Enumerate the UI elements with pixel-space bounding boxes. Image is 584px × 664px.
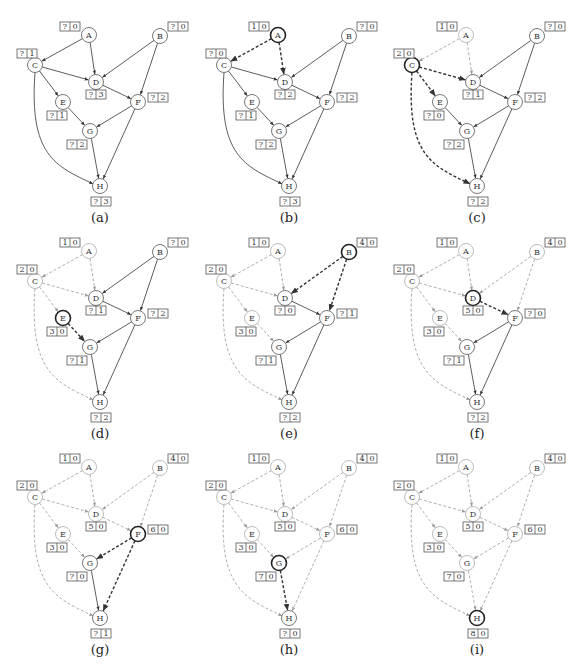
label-box-h: ?2: [91, 413, 111, 422]
in-degree: 2: [79, 140, 84, 149]
node-label: C: [409, 277, 415, 286]
in-degree: 0: [287, 306, 292, 315]
edge-e-g: [445, 539, 461, 557]
label-box-a: 10: [60, 238, 80, 247]
in-degree: 2: [349, 93, 354, 102]
order-number: ?: [89, 306, 93, 315]
node-f: F: [508, 527, 523, 542]
order-number: 2: [208, 265, 213, 274]
in-degree: 0: [268, 572, 273, 581]
panel-c: A10B?0C20D?1E?0F?2G?2H?2(c): [394, 22, 565, 225]
node-g: G: [460, 556, 475, 571]
order-number: 2: [19, 481, 24, 490]
label-box-a: 10: [249, 22, 269, 31]
order-number: ?: [70, 140, 74, 149]
label-box-g: ?0: [67, 572, 87, 581]
edge-d-f: [292, 85, 320, 98]
node-label: D: [282, 78, 288, 87]
edge-b-f: [518, 475, 535, 526]
order-number: ?: [171, 238, 175, 247]
node-d: D: [278, 507, 293, 522]
in-degree: 1: [248, 111, 253, 120]
node-c: C: [405, 490, 420, 505]
in-degree: 2: [456, 140, 461, 149]
label-box-a: 10: [437, 238, 457, 247]
in-degree: 0: [29, 481, 34, 490]
node-label: C: [409, 493, 415, 502]
edge-a-d: [279, 258, 284, 290]
edge-f-h: [292, 541, 324, 611]
edge-a-d: [467, 42, 472, 74]
node-label: F: [324, 98, 330, 107]
node-d: D: [89, 75, 104, 90]
label-box-a: ?0: [60, 22, 80, 31]
panel-caption: (h): [280, 642, 299, 657]
node-b: B: [153, 29, 168, 44]
node-f: F: [508, 95, 523, 110]
edge-e-g: [257, 107, 273, 125]
edge-e-g: [68, 539, 84, 557]
edge-c-e: [417, 287, 436, 312]
label-box-h: 80: [468, 629, 488, 638]
edge-a-d: [279, 474, 284, 506]
node-label: C: [32, 61, 38, 70]
edge-d-f: [480, 517, 508, 530]
node-h: H: [470, 395, 485, 410]
edge-b-f: [141, 475, 158, 526]
node-label: F: [512, 530, 518, 539]
label-box-h: ?0: [280, 629, 300, 638]
order-number: ?: [239, 111, 243, 120]
order-number: 2: [208, 481, 213, 490]
node-label: F: [324, 530, 330, 539]
in-degree: 0: [72, 454, 77, 463]
node-label: B: [346, 248, 352, 257]
node-h: H: [93, 611, 108, 626]
order-number: 5: [465, 522, 470, 531]
label-box-f: ?2: [525, 93, 545, 102]
label-box-c: 20: [17, 265, 37, 274]
edge-c-e: [229, 71, 248, 96]
node-label: B: [157, 464, 163, 473]
edge-e-g: [257, 539, 273, 557]
label-box-b: 40: [357, 238, 377, 247]
label-box-d: 50: [275, 522, 295, 531]
node-a: A: [82, 244, 97, 259]
node-label: H: [474, 398, 481, 407]
edge-a-d: [467, 474, 472, 506]
order-number: ?: [50, 111, 54, 120]
edge-g-h: [280, 570, 287, 610]
label-box-d: ?3: [86, 90, 106, 99]
edge-g-h: [468, 354, 475, 394]
order-number: ?: [70, 572, 74, 581]
in-degree: 1: [59, 111, 64, 120]
in-degree: 2: [268, 140, 273, 149]
node-label: B: [534, 248, 540, 257]
edge-f-h: [480, 325, 512, 395]
order-number: 4: [547, 238, 552, 247]
node-label: B: [534, 464, 540, 473]
edge-d-f: [480, 85, 508, 98]
edge-f-h: [480, 541, 512, 611]
node-b: B: [530, 29, 545, 44]
node-label: D: [93, 510, 99, 519]
edge-c-d: [42, 67, 88, 80]
node-g: G: [272, 556, 287, 571]
order-number: ?: [171, 22, 175, 31]
label-box-c: 20: [206, 481, 226, 490]
edge-c-e: [40, 71, 59, 96]
in-degree: 0: [72, 22, 77, 31]
label-box-c: 20: [17, 481, 37, 490]
label-box-a: 10: [437, 454, 457, 463]
node-a: A: [82, 28, 97, 43]
in-degree: 1: [103, 629, 108, 638]
in-degree: 2: [160, 309, 165, 318]
edge-b-f: [330, 475, 347, 526]
order-number: 3: [238, 543, 243, 552]
in-degree: 0: [261, 454, 266, 463]
in-degree: 0: [436, 543, 441, 552]
node-b: B: [342, 461, 357, 476]
edge-d-f: [292, 517, 320, 530]
order-number: 1: [439, 238, 444, 247]
in-degree: 0: [436, 327, 441, 336]
order-number: 4: [170, 454, 175, 463]
